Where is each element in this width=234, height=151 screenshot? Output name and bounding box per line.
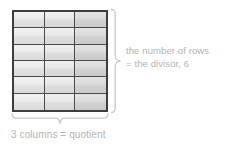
array-cell xyxy=(75,12,106,28)
array-cell xyxy=(45,77,76,93)
array-cell xyxy=(75,94,106,110)
array-cell xyxy=(14,61,45,77)
division-array-diagram: the number of rows = the divisor, 6 3 co… xyxy=(0,0,234,151)
array-cell xyxy=(45,45,76,61)
array-cell xyxy=(14,12,45,28)
rows-label-line-2: = the divisor, 6 xyxy=(126,58,232,71)
rows-label-line-1: the number of rows xyxy=(126,45,232,58)
array-cell xyxy=(45,12,76,28)
array-cell xyxy=(75,45,106,61)
array-cell xyxy=(14,77,45,93)
array-cell xyxy=(75,77,106,93)
array-cell xyxy=(14,45,45,61)
rows-label: the number of rows = the divisor, 6 xyxy=(126,45,232,70)
array-cell xyxy=(14,28,45,44)
array-cell xyxy=(45,61,76,77)
right-curly-brace-icon xyxy=(110,8,122,114)
array-cell xyxy=(14,94,45,110)
array-cell xyxy=(75,28,106,44)
array-cell xyxy=(75,61,106,77)
array-cell xyxy=(45,94,76,110)
columns-label: 3 columns = quotient xyxy=(11,128,106,141)
bottom-curly-brace-icon xyxy=(10,112,110,126)
array-grid xyxy=(12,10,108,112)
array-cell xyxy=(45,28,76,44)
